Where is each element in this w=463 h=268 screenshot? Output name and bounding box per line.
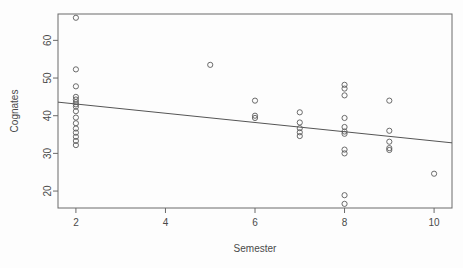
y-axis-tick-label: 40 <box>43 110 54 122</box>
x-axis-tick-label: 10 <box>429 217 441 228</box>
data-point <box>73 67 78 72</box>
data-point <box>342 193 347 198</box>
data-point <box>342 115 347 120</box>
y-axis-tick-label: 20 <box>43 185 54 197</box>
data-point <box>73 84 78 89</box>
data-point <box>297 120 302 125</box>
y-axis-title: Cognates <box>9 90 20 133</box>
y-axis: 2030405060 <box>43 34 59 196</box>
chart-canvas: 2030405060246810SemesterCognates <box>0 0 463 268</box>
y-axis-tick-label: 30 <box>43 147 54 159</box>
data-point <box>387 98 392 103</box>
data-point <box>342 93 347 98</box>
data-points <box>73 15 436 206</box>
data-point <box>73 121 78 126</box>
x-axis: 246810 <box>73 208 440 228</box>
y-axis-tick-label: 60 <box>43 34 54 46</box>
data-point <box>342 151 347 156</box>
x-axis-title: Semester <box>234 243 277 254</box>
x-axis-tick-label: 6 <box>252 217 258 228</box>
data-point <box>73 15 78 20</box>
data-point <box>73 115 78 120</box>
data-point <box>297 133 302 138</box>
data-point <box>208 62 213 67</box>
data-point <box>387 139 392 144</box>
data-point <box>342 201 347 206</box>
y-axis-tick-label: 50 <box>43 72 54 84</box>
data-point <box>342 86 347 91</box>
regression-line <box>58 102 452 143</box>
scatter-plot-figure: 2030405060246810SemesterCognates <box>0 0 463 268</box>
data-point <box>297 110 302 115</box>
x-axis-tick-label: 4 <box>163 217 169 228</box>
plot-panel-border <box>58 14 452 208</box>
data-point <box>252 98 257 103</box>
x-axis-tick-label: 2 <box>73 217 79 228</box>
data-point <box>387 128 392 133</box>
data-point <box>431 171 436 176</box>
x-axis-tick-label: 8 <box>342 217 348 228</box>
